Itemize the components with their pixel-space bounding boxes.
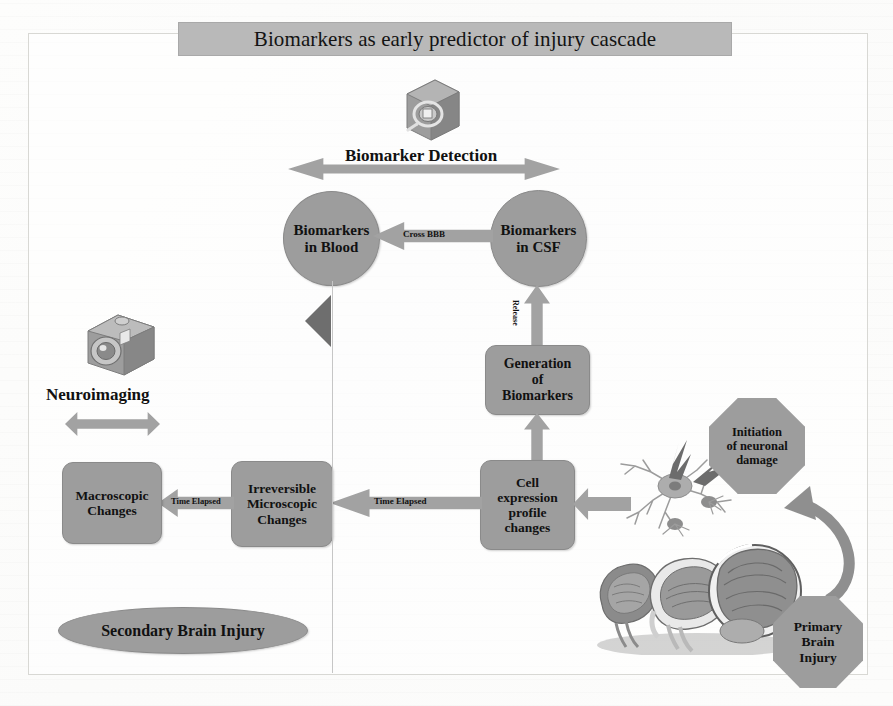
node-label-line: Biomarkers: [502, 388, 573, 404]
node-label-line: Microscopic: [247, 496, 317, 511]
node-secondary-brain-injury: Secondary Brain Injury: [58, 607, 308, 654]
magnifier-box-icon: [395, 72, 467, 144]
node-label-line: Irreversible: [248, 481, 316, 496]
edge-label-cross-bbb: Cross BBB: [403, 229, 445, 239]
edge-label-time-elapsed-1: Time Elapsed: [171, 496, 221, 506]
node-label-line: damage: [736, 453, 778, 467]
edge-label-time-elapsed-2: Time Elapsed: [374, 496, 427, 506]
node-label-line: Initiation: [732, 425, 782, 439]
edge-label-release: Release: [511, 300, 520, 326]
biomarker-detection-label: Biomarker Detection: [345, 146, 497, 166]
node-macroscopic-changes: Macroscopic Changes: [62, 462, 162, 544]
node-label-line: Generation: [504, 356, 572, 372]
node-label-line: Secondary Brain Injury: [101, 622, 265, 640]
figure-title: Biomarkers as early predictor of injury …: [254, 27, 656, 52]
camera-icon: [80, 305, 162, 381]
node-label-line: of: [532, 372, 544, 388]
node-biomarkers-in-csf: Biomarkers in CSF: [490, 190, 587, 287]
figure-canvas: Biomarkers as early predictor of injury …: [0, 0, 893, 706]
node-label-line: Primary: [794, 619, 843, 634]
node-generation-of-biomarkers: Generation of Biomarkers: [485, 345, 590, 415]
node-label-line: profile: [509, 505, 547, 520]
node-label-line: in CSF: [516, 239, 561, 256]
node-label-line: Macroscopic: [75, 488, 148, 503]
node-label-line: Changes: [87, 503, 137, 518]
node-label-line: Cell: [516, 475, 539, 490]
node-cell-expression-profile-changes: Cell expression profile changes: [480, 460, 575, 550]
node-label-line: Changes: [257, 512, 307, 527]
neuroimaging-label: Neuroimaging: [46, 385, 150, 405]
node-label-line: changes: [505, 520, 551, 535]
node-label-line: Biomarkers: [294, 222, 370, 239]
node-label-line: Brain: [801, 634, 834, 649]
node-label-line: Injury: [799, 650, 837, 665]
section-divider: [332, 281, 333, 673]
node-label-line: expression: [497, 490, 558, 505]
figure-title-banner: Biomarkers as early predictor of injury …: [178, 22, 732, 56]
node-biomarkers-in-blood: Biomarkers in Blood: [283, 191, 380, 286]
secondary-injury-pointer-triangle: [305, 295, 331, 347]
node-label-line: Biomarkers: [501, 222, 577, 239]
node-irreversible-microscopic-changes: Irreversible Microscopic Changes: [231, 461, 333, 547]
node-label-line: in Blood: [305, 239, 359, 256]
node-label-line: of neuronal: [726, 439, 787, 453]
